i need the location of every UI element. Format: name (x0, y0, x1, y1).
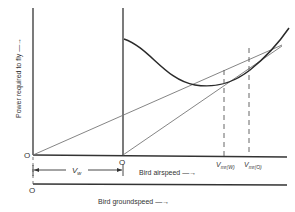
vmr-0-label: Vmr(O) (244, 161, 262, 170)
airspeed-axis-label: Bird airspeed —→ (139, 169, 196, 177)
vmr-w-label: Vmr(W) (216, 161, 235, 170)
vmr-w-sub: mr(W) (221, 164, 235, 170)
vmr-0-sub: mr(O) (249, 164, 262, 170)
groundspeed-axis (33, 184, 287, 185)
wind-speed-sub: w (77, 170, 82, 176)
origin-middle-label: O (119, 158, 125, 167)
groundspeed-axis-label: Bird groundspeed —→ (98, 198, 169, 206)
origin-left-label: O (24, 151, 30, 160)
airspeed-axis (33, 155, 287, 157)
y-axis-label: Power required to fly —→ (15, 38, 23, 118)
tangent-line-wind (33, 45, 282, 155)
origin-ground-label: O (29, 186, 35, 195)
arrowhead-left-icon (34, 168, 39, 172)
wind-speed-label: Vw (72, 166, 82, 176)
power-curve-diagram: Power required to fly —→ O O O Vw Bird a… (0, 0, 295, 212)
power-curve (124, 28, 289, 86)
arrowhead-right-icon (117, 168, 122, 172)
